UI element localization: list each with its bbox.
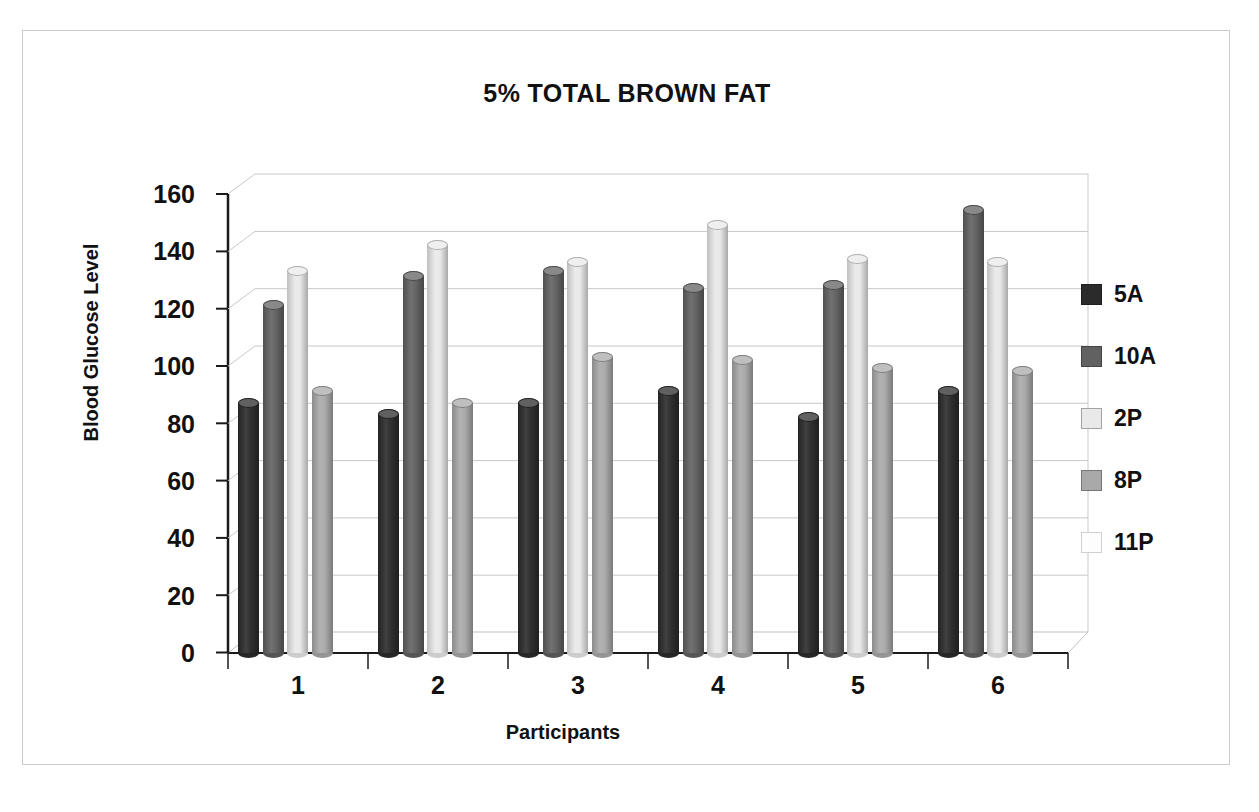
- y-axis-tick-labels: 020406080100120140160: [133, 31, 195, 766]
- bar-2P-participant-1[interactable]: [287, 266, 308, 653]
- bar-8P-participant-3[interactable]: [592, 352, 613, 653]
- y-axis-tick-80: 80: [133, 411, 195, 436]
- legend-label: 5A: [1114, 281, 1143, 308]
- bar-body: [312, 391, 333, 653]
- bar-body: [847, 259, 868, 653]
- bar-10A-participant-1[interactable]: [263, 300, 284, 653]
- x-axis-tick-5: 5: [828, 671, 888, 700]
- bar-top-cap: [732, 355, 753, 365]
- bar-5A-participant-1[interactable]: [238, 398, 259, 653]
- x-axis-tick-labels: 123456: [23, 671, 1231, 711]
- x-axis-tick-6: 6: [968, 671, 1028, 700]
- bar-5A-participant-2[interactable]: [378, 409, 399, 653]
- bar-body: [658, 391, 679, 653]
- legend-swatch-icon-8P: [1081, 470, 1102, 491]
- bar-body: [798, 417, 819, 653]
- bar-top-cap: [238, 398, 259, 408]
- bar-body: [452, 403, 473, 653]
- x-axis-tick-2: 2: [408, 671, 468, 700]
- bar-top-cap: [872, 363, 893, 373]
- legend-item-8P[interactable]: 8P: [1081, 449, 1221, 511]
- bar-body: [543, 271, 564, 653]
- bar-body: [1012, 371, 1033, 653]
- legend-label: 11P: [1114, 529, 1154, 556]
- bar-10A-participant-4[interactable]: [683, 283, 704, 653]
- bar-2P-participant-4[interactable]: [707, 220, 728, 653]
- bar-10A-participant-6[interactable]: [963, 205, 984, 653]
- bar-body: [987, 262, 1008, 653]
- bar-5A-participant-6[interactable]: [938, 386, 959, 653]
- bar-2P-participant-5[interactable]: [847, 254, 868, 653]
- bar-top-cap: [452, 398, 473, 408]
- bar-5A-participant-5[interactable]: [798, 412, 819, 653]
- x-axis-tick-4: 4: [688, 671, 748, 700]
- bar-body: [238, 403, 259, 653]
- legend-item-2P[interactable]: 2P: [1081, 387, 1221, 449]
- y-axis-tick-120: 120: [133, 296, 195, 321]
- y-axis-tick-100: 100: [133, 354, 195, 379]
- bar-top-cap: [287, 266, 308, 276]
- bar-body: [707, 225, 728, 653]
- bar-body: [263, 305, 284, 653]
- bar-10A-participant-5[interactable]: [823, 280, 844, 653]
- bar-body: [427, 245, 448, 653]
- bar-2P-participant-3[interactable]: [567, 257, 588, 653]
- legend-item-11P[interactable]: 11P: [1081, 511, 1221, 573]
- bar-body: [567, 262, 588, 653]
- bar-8P-participant-6[interactable]: [1012, 366, 1033, 653]
- bar-body: [378, 414, 399, 653]
- bar-10A-participant-2[interactable]: [403, 271, 424, 653]
- x-axis-tick-1: 1: [268, 671, 328, 700]
- bar-2P-participant-2[interactable]: [427, 240, 448, 653]
- bar-top-cap: [798, 412, 819, 422]
- y-axis-title: Blood Glucose Level: [80, 213, 103, 473]
- x-axis-title: Participants: [193, 721, 933, 744]
- chart-legend: 5A10A2P8P11P: [1081, 263, 1221, 573]
- legend-swatch-icon-5A: [1081, 284, 1102, 305]
- bar-top-cap: [823, 280, 844, 290]
- bar-top-cap: [707, 220, 728, 230]
- legend-label: 2P: [1114, 405, 1142, 432]
- bar-top-cap: [1012, 366, 1033, 376]
- bar-10A-participant-3[interactable]: [543, 266, 564, 653]
- legend-item-10A[interactable]: 10A: [1081, 325, 1221, 387]
- bar-body: [683, 288, 704, 653]
- x-axis-tick-3: 3: [548, 671, 608, 700]
- bar-body: [592, 357, 613, 653]
- chart-plot-area: 020406080100120140160 Blood Glucose Leve…: [23, 31, 1231, 766]
- legend-label: 10A: [1114, 343, 1156, 370]
- bar-8P-participant-2[interactable]: [452, 398, 473, 653]
- bar-5A-participant-3[interactable]: [518, 398, 539, 653]
- legend-swatch-icon-10A: [1081, 346, 1102, 367]
- bar-body: [938, 391, 959, 653]
- legend-item-5A[interactable]: 5A: [1081, 263, 1221, 325]
- legend-swatch-icon-11P: [1081, 532, 1102, 553]
- bar-top-cap: [592, 352, 613, 362]
- chart-axes-and-gridlines: [23, 31, 1231, 766]
- bar-body: [403, 276, 424, 653]
- bar-top-cap: [518, 398, 539, 408]
- bar-body: [732, 360, 753, 653]
- bar-8P-participant-5[interactable]: [872, 363, 893, 653]
- bar-top-cap: [312, 386, 333, 396]
- scanned-page-frame: 5% TOTAL BROWN FAT: [22, 30, 1230, 765]
- bar-8P-participant-4[interactable]: [732, 355, 753, 653]
- bar-5A-participant-4[interactable]: [658, 386, 679, 653]
- bar-body: [872, 368, 893, 653]
- bar-top-cap: [543, 266, 564, 276]
- legend-swatch-icon-2P: [1081, 408, 1102, 429]
- bar-2P-participant-6[interactable]: [987, 257, 1008, 653]
- y-axis-tick-40: 40: [133, 526, 195, 551]
- y-axis-tick-140: 140: [133, 239, 195, 264]
- bar-body: [518, 403, 539, 653]
- y-axis-tick-60: 60: [133, 468, 195, 493]
- y-axis-tick-0: 0: [133, 641, 195, 666]
- bar-top-cap: [263, 300, 284, 310]
- bar-body: [287, 271, 308, 653]
- y-axis-tick-160: 160: [133, 182, 195, 207]
- bar-top-cap: [427, 240, 448, 250]
- bar-body: [963, 210, 984, 653]
- legend-label: 8P: [1114, 467, 1142, 494]
- y-axis-tick-20: 20: [133, 583, 195, 608]
- bar-8P-participant-1[interactable]: [312, 386, 333, 653]
